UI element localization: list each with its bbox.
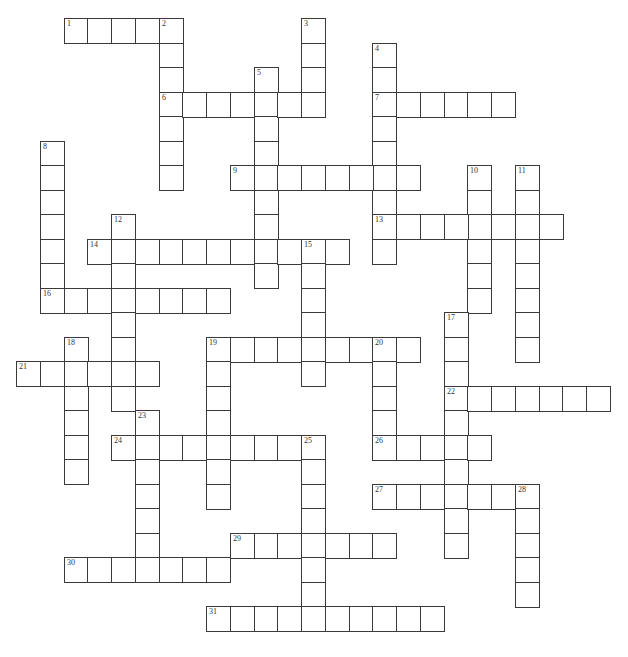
crossword-cell[interactable] (467, 263, 492, 289)
crossword-cell[interactable] (396, 214, 421, 240)
crossword-cell[interactable] (135, 361, 160, 387)
crossword-cell[interactable] (206, 435, 231, 461)
crossword-cell[interactable] (491, 92, 516, 118)
crossword-cell[interactable] (586, 386, 611, 412)
crossword-cell[interactable]: 5 (254, 67, 279, 93)
crossword-cell[interactable] (159, 165, 184, 191)
crossword-cell[interactable] (40, 165, 65, 191)
crossword-cell[interactable] (206, 239, 231, 265)
crossword-cell[interactable]: 30 (64, 557, 89, 583)
crossword-cell[interactable] (159, 239, 184, 265)
crossword-cell[interactable] (87, 557, 112, 583)
crossword-cell[interactable] (87, 288, 112, 314)
crossword-cell[interactable] (254, 533, 279, 559)
crossword-cell[interactable] (111, 337, 136, 363)
crossword-cell[interactable] (159, 288, 184, 314)
crossword-cell[interactable] (372, 606, 397, 632)
crossword-cell[interactable] (301, 263, 326, 289)
crossword-cell[interactable] (206, 92, 231, 118)
crossword-cell[interactable] (301, 312, 326, 338)
crossword-cell[interactable] (301, 508, 326, 534)
crossword-cell[interactable] (277, 337, 302, 363)
crossword-cell[interactable] (467, 288, 492, 314)
crossword-cell[interactable] (206, 386, 231, 412)
crossword-cell[interactable]: 13 (372, 214, 397, 240)
crossword-cell[interactable] (325, 337, 350, 363)
crossword-cell[interactable] (515, 239, 540, 265)
crossword-cell[interactable] (230, 337, 255, 363)
crossword-cell[interactable] (111, 361, 136, 387)
crossword-cell[interactable] (301, 533, 326, 559)
crossword-cell[interactable] (372, 165, 397, 191)
crossword-cell[interactable] (230, 606, 255, 632)
crossword-cell[interactable] (111, 18, 136, 44)
crossword-cell[interactable] (420, 606, 445, 632)
crossword-cell[interactable] (396, 606, 421, 632)
crossword-cell[interactable] (277, 435, 302, 461)
crossword-cell[interactable] (420, 484, 445, 510)
crossword-cell[interactable] (64, 435, 89, 461)
crossword-cell[interactable] (206, 557, 231, 583)
crossword-cell[interactable] (111, 239, 136, 265)
crossword-cell[interactable] (491, 214, 516, 240)
crossword-cell[interactable] (277, 165, 302, 191)
crossword-cell[interactable] (444, 214, 469, 240)
crossword-cell[interactable] (206, 484, 231, 510)
crossword-cell[interactable] (491, 484, 516, 510)
crossword-cell[interactable]: 26 (372, 435, 397, 461)
crossword-cell[interactable] (159, 43, 184, 69)
crossword-cell[interactable] (301, 557, 326, 583)
crossword-cell[interactable] (159, 116, 184, 142)
crossword-cell[interactable] (325, 165, 350, 191)
crossword-cell[interactable] (515, 214, 540, 240)
crossword-cell[interactable] (444, 92, 469, 118)
crossword-cell[interactable]: 29 (230, 533, 255, 559)
crossword-cell[interactable] (372, 67, 397, 93)
crossword-cell[interactable] (515, 582, 540, 608)
crossword-cell[interactable] (254, 606, 279, 632)
crossword-cell[interactable] (372, 116, 397, 142)
crossword-cell[interactable] (539, 214, 564, 240)
crossword-cell[interactable] (206, 410, 231, 436)
crossword-cell[interactable] (135, 508, 160, 534)
crossword-cell[interactable] (396, 92, 421, 118)
crossword-cell[interactable] (444, 435, 469, 461)
crossword-cell[interactable] (254, 190, 279, 216)
crossword-cell[interactable] (467, 92, 492, 118)
crossword-cell[interactable] (230, 92, 255, 118)
crossword-cell[interactable] (40, 190, 65, 216)
crossword-cell[interactable] (396, 435, 421, 461)
crossword-cell[interactable] (111, 386, 136, 412)
crossword-cell[interactable] (254, 239, 279, 265)
crossword-cell[interactable]: 9 (230, 165, 255, 191)
crossword-cell[interactable] (206, 288, 231, 314)
crossword-cell[interactable]: 14 (87, 239, 112, 265)
crossword-cell[interactable] (301, 459, 326, 485)
crossword-cell[interactable] (396, 165, 421, 191)
crossword-cell[interactable] (254, 141, 279, 167)
crossword-cell[interactable] (301, 67, 326, 93)
crossword-cell[interactable] (349, 165, 374, 191)
crossword-cell[interactable] (325, 239, 350, 265)
crossword-cell[interactable] (301, 606, 326, 632)
crossword-cell[interactable]: 27 (372, 484, 397, 510)
crossword-cell[interactable] (301, 92, 326, 118)
crossword-cell[interactable] (159, 141, 184, 167)
crossword-cell[interactable] (87, 18, 112, 44)
crossword-cell[interactable] (230, 239, 255, 265)
crossword-cell[interactable] (515, 557, 540, 583)
crossword-cell[interactable] (206, 459, 231, 485)
crossword-cell[interactable] (135, 288, 160, 314)
crossword-cell[interactable] (40, 214, 65, 240)
crossword-cell[interactable] (182, 288, 207, 314)
crossword-cell[interactable]: 16 (40, 288, 65, 314)
crossword-cell[interactable] (301, 165, 326, 191)
crossword-cell[interactable] (349, 533, 374, 559)
crossword-cell[interactable]: 12 (111, 214, 136, 240)
crossword-cell[interactable] (206, 361, 231, 387)
crossword-cell[interactable]: 2 (159, 18, 184, 44)
crossword-cell[interactable] (515, 288, 540, 314)
crossword-cell[interactable] (40, 361, 65, 387)
crossword-cell[interactable] (325, 606, 350, 632)
crossword-cell[interactable] (182, 557, 207, 583)
